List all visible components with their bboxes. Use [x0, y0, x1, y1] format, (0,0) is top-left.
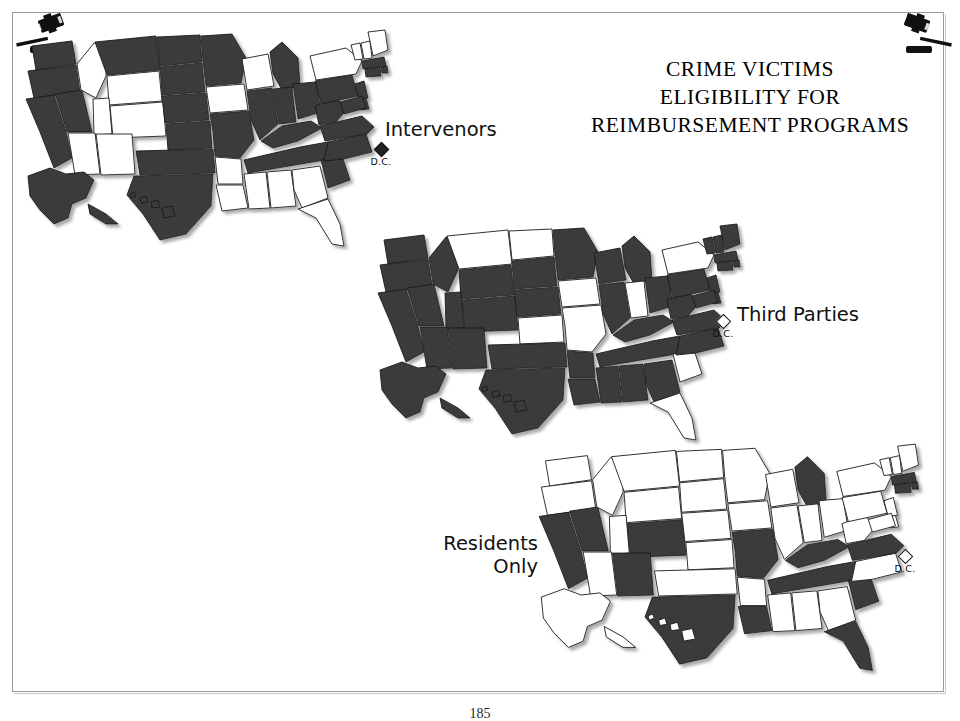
page-title: CRIME VICTIMS ELIGIBILITY FOR REIMBURSEM…	[560, 56, 940, 140]
map-label-intervenors: Intervenors	[385, 118, 497, 141]
page-number: 185	[0, 706, 960, 721]
dc-diamond-icon	[715, 314, 731, 330]
map-intervenors-svg	[10, 28, 410, 278]
dc-marker-residents-only: D.C.	[890, 551, 920, 574]
map-page: CRIME VICTIMS ELIGIBILITY FOR REIMBURSEM…	[0, 0, 960, 721]
map-residents-only-svg	[522, 442, 942, 704]
map-label-third-parties: Third Parties	[737, 303, 859, 326]
dc-marker-third-parties: D.C.	[708, 316, 738, 339]
title-line-1: CRIME VICTIMS	[560, 56, 940, 84]
map-third-parties	[362, 222, 762, 472]
dc-diamond-icon	[897, 549, 913, 565]
map-third-parties-svg	[362, 222, 762, 472]
dc-diamond-icon	[373, 142, 389, 158]
map-label-residents-only: Residents Only	[418, 532, 538, 578]
map-residents-only	[522, 442, 942, 704]
dc-marker-intervenors: D.C.	[366, 144, 396, 167]
map-intervenors	[10, 28, 410, 278]
title-line-3: REIMBURSEMENT PROGRAMS	[560, 112, 940, 140]
title-line-2: ELIGIBILITY FOR	[560, 84, 940, 112]
